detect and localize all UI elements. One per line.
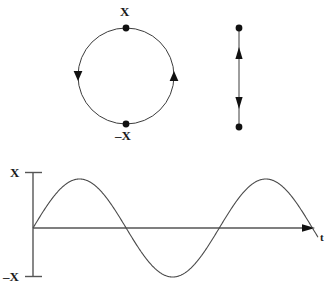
motion-circle — [78, 28, 174, 124]
graph-y-max-label: X — [10, 166, 19, 179]
graph-y-min-label: –X — [3, 270, 19, 283]
circle-top-point-marker — [123, 25, 130, 32]
circle-diagram-group — [74, 25, 179, 128]
projection-top-point-marker — [236, 25, 243, 32]
circle-top-label: X — [120, 5, 129, 18]
projection-down-arrow-icon — [235, 97, 242, 109]
projection-bottom-point-marker — [236, 124, 243, 131]
sine-graph-group — [25, 172, 318, 277]
circle-bottom-point-marker — [123, 121, 130, 128]
projection-up-arrow-icon — [235, 47, 242, 59]
circle-left-down-arrow-icon — [74, 71, 83, 81]
graph-x-axis-label: t — [320, 232, 324, 243]
projection-diagram-group — [235, 25, 242, 131]
circle-right-up-arrow-icon — [170, 71, 179, 81]
circle-bottom-label: –X — [115, 129, 131, 142]
figure-canvas — [0, 0, 336, 304]
physics-figure-shm: X –X X –X t — [0, 0, 336, 304]
